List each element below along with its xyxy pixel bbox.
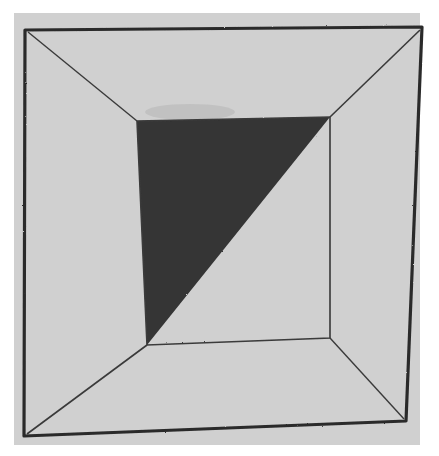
connector-bottom-right bbox=[330, 338, 404, 419]
drawing bbox=[0, 0, 439, 456]
connector-top-right bbox=[330, 30, 420, 117]
smudge bbox=[145, 104, 235, 120]
connector-bottom-left bbox=[27, 345, 147, 434]
dark-triangle bbox=[137, 117, 330, 345]
connector-top-left bbox=[28, 32, 137, 121]
